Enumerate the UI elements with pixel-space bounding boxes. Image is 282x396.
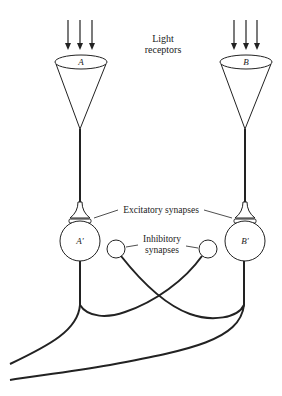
inhibitory-synapse-right	[199, 240, 217, 258]
excitatory-leader-left	[94, 210, 118, 218]
inhibitory-synapse-left	[107, 240, 125, 258]
light-arrows-a	[65, 20, 95, 50]
fiber-b-to-inhibitory-left	[121, 256, 244, 318]
receptor-b-label: B	[243, 57, 249, 67]
inhibitory-leader-left	[126, 245, 138, 247]
light-arrows-b	[231, 20, 260, 50]
axon-fibers	[10, 256, 244, 380]
neuron-a-prime-label: A′	[75, 236, 84, 246]
excitatory-synapse-b	[234, 202, 256, 223]
inhibitory-label-line1: Inhibitory	[143, 234, 181, 244]
excitatory-leader-right	[204, 210, 232, 218]
light-receptors-label-line1: Light	[152, 33, 174, 44]
inhibitory-label-line2: synapses	[145, 245, 179, 255]
receptor-a-label: A	[77, 57, 84, 67]
inhibitory-leader-right	[186, 246, 198, 248]
output-fiber-a	[10, 305, 80, 364]
excitatory-synapses-label: Excitatory synapses	[123, 205, 199, 215]
neural-circuit-diagram: Light receptors A B Excitatory synapses …	[0, 0, 282, 396]
neuron-b-prime-label: B′	[241, 236, 249, 246]
fiber-a-to-inhibitory-right	[80, 256, 202, 316]
excitatory-synapse-a	[69, 202, 91, 223]
light-receptors-label-line2: receptors	[145, 44, 182, 55]
output-fiber-b	[10, 305, 244, 380]
